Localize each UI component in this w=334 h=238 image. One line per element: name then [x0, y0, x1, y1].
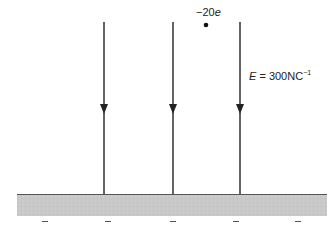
diagram-canvas [0, 0, 334, 238]
charge-label: −20e [196, 6, 221, 18]
field-exponent: −1 [303, 69, 311, 76]
field-line-2 [169, 22, 177, 194]
charge-unit: e [215, 6, 221, 18]
charged-plate [17, 194, 327, 216]
arrow-down-icon [236, 104, 244, 114]
arrow-down-icon [169, 104, 177, 114]
point-charge-dot [204, 23, 209, 28]
arrow-down-icon [100, 104, 108, 114]
field-line-1 [100, 22, 108, 194]
field-value: = 300NC [256, 70, 303, 82]
field-line-3 [236, 22, 244, 194]
field-strength-label: E = 300NC−1 [249, 69, 311, 82]
charge-value: −20 [196, 6, 215, 18]
